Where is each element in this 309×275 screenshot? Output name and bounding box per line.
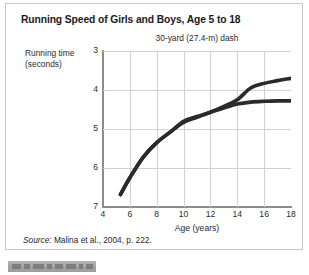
chart-title: Running Speed of Girls and Boys, Age 5 t… <box>21 14 241 25</box>
source-label: Source: <box>23 235 52 245</box>
redacted-glyph <box>12 264 21 269</box>
redacted-glyph <box>24 264 30 269</box>
x-tick-label: 16 <box>255 209 273 219</box>
y-axis-title-line2: (seconds) <box>25 59 62 69</box>
x-tick-label: 6 <box>121 209 139 219</box>
redacted-glyph <box>55 264 63 269</box>
y-axis-title-line1: Running time <box>25 48 74 58</box>
y-axis-title: Running time (seconds) <box>25 48 74 70</box>
redacted-glyph <box>66 264 76 269</box>
plot-area: BoysGirls <box>103 51 291 207</box>
plot-inner <box>103 51 291 207</box>
redacted-glyph <box>86 264 93 269</box>
y-tick-label: 4 <box>82 84 98 94</box>
x-axis-title: Age (years) <box>103 223 291 233</box>
y-axis-tick-labels: 34567 <box>80 51 98 207</box>
redacted-glyph <box>79 264 83 269</box>
x-tick-label: 14 <box>228 209 246 219</box>
redacted-caption-bar <box>8 261 96 272</box>
x-tick-label: 12 <box>201 209 219 219</box>
figure-container: Running Speed of Girls and Boys, Age 5 t… <box>5 3 303 250</box>
x-tick-label: 18 <box>282 209 300 219</box>
y-tick-label: 3 <box>82 45 98 55</box>
y-tick-label: 5 <box>82 123 98 133</box>
series-line-boys <box>120 78 291 194</box>
x-tick-label: 8 <box>148 209 166 219</box>
y-tick-label: 6 <box>82 162 98 172</box>
source-note: Source: Malina et al., 2004, p. 222. <box>23 235 152 245</box>
series-line-girls <box>120 101 291 195</box>
series-curves <box>103 51 291 207</box>
redacted-glyph <box>33 264 44 269</box>
x-axis-tick-labels: 4681012141618 <box>103 209 291 221</box>
chart-subtitle: 30-yard (27.4-m) dash <box>103 33 291 43</box>
redacted-glyph <box>47 264 52 269</box>
source-citation: Malina et al., 2004, p. 222. <box>52 235 152 245</box>
x-tick-label: 10 <box>175 209 193 219</box>
x-tick-label: 4 <box>94 209 112 219</box>
